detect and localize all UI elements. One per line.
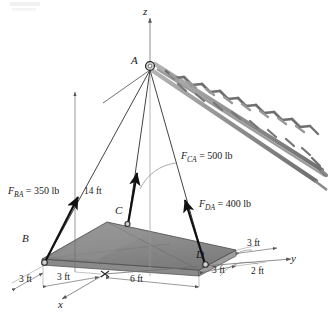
force-arrow-FCA	[128, 173, 137, 224]
dim-label-2ft: 2 ft	[251, 267, 264, 277]
force-subscript-FBA: BA	[14, 190, 23, 199]
dim-label-3ft-left-outer: 3 ft	[19, 275, 32, 285]
force-value-FDA: 400	[226, 198, 241, 209]
plate	[42, 222, 236, 276]
force-value-FCA: 500	[207, 150, 222, 161]
dim-label-3ft-left-inner: 3 ft	[57, 273, 70, 283]
point-label-A: A	[131, 55, 138, 66]
dim-3ft-inner	[47, 277, 99, 286]
force-label-FDA: FDA = 400 lb	[199, 199, 251, 212]
force-unit-FCA: lb	[225, 150, 233, 161]
force-subscript-FCA: CA	[187, 155, 197, 164]
force-equals-FCA: =	[199, 150, 205, 161]
force-equals-FDA: =	[218, 198, 224, 209]
scan-artifact	[10, 2, 40, 11]
x-axis-label: x	[58, 299, 63, 310]
leader-FCA	[140, 163, 176, 189]
y-axis-label: y	[291, 253, 296, 264]
ring-D	[203, 262, 209, 268]
ring-B	[42, 260, 48, 266]
z-axis-label: z	[143, 6, 147, 17]
force-subscript-FDA: DA	[205, 203, 215, 212]
dim-label-3ft-right-lower: 3 ft	[212, 266, 225, 276]
diagram-svg	[0, 0, 328, 320]
force-label-FBA: FBA = 350 lb	[8, 186, 59, 199]
point-label-C: C	[115, 205, 122, 216]
force-label-FCA: FCA = 500 lb	[181, 151, 233, 164]
boom-truss	[153, 64, 328, 190]
figure-canvas: z y x A B C D 14 ft 3 ft 3 ft 6 ft 3 ft …	[0, 0, 328, 320]
force-unit-FBA: lb	[51, 185, 59, 196]
dim-label-14ft: 14 ft	[84, 187, 102, 197]
force-value-FBA: 350	[34, 185, 49, 196]
force-unit-FDA: lb	[243, 198, 251, 209]
dimension-6ft	[110, 276, 199, 287]
dim-label-3ft-right-upper: 3 ft	[247, 239, 260, 249]
force-equals-FBA: =	[26, 185, 32, 196]
dim-line-6ft	[110, 278, 199, 287]
point-label-D: D	[196, 249, 204, 260]
point-label-B: B	[22, 233, 29, 244]
ring-C	[125, 222, 130, 227]
dim-label-6ft: 6 ft	[130, 275, 143, 285]
leader-arc-FCA	[140, 163, 176, 189]
